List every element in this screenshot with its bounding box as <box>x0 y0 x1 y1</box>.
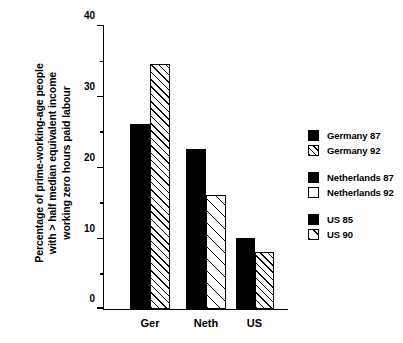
legend-label-us-85: US 85 <box>327 214 353 225</box>
bar-us-90 <box>255 252 274 309</box>
y-tick-minor-15 <box>100 202 104 203</box>
legend-item-netherlands-92: Netherlands 92 <box>308 185 394 200</box>
plot-area: 40 30 20 10 0 Ger Neth US <box>103 25 288 310</box>
y-tick-0 <box>97 307 103 308</box>
x-tick-label-us: US <box>247 317 262 329</box>
legend-label-germany-87: Germany 87 <box>327 130 380 141</box>
x-axis-line <box>103 309 288 310</box>
x-tick-label-ger: Ger <box>141 317 160 329</box>
legend-group-germany: Germany 87 Germany 92 <box>308 128 394 158</box>
bar-netherlands-87 <box>186 149 206 309</box>
legend-swatch-hatch-icon <box>308 145 319 156</box>
x-tick-label-neth: Neth <box>194 317 218 329</box>
y-tick-label-0: 0 <box>89 292 95 303</box>
bar-germany-92 <box>150 64 170 309</box>
bar-chart: Percentage of prime-working-age people w… <box>0 0 403 343</box>
y-tick-minor-35 <box>100 61 104 62</box>
y-axis-title-text: Percentage of prime-working-age people w… <box>33 63 74 262</box>
legend-label-germany-92: Germany 92 <box>327 145 380 156</box>
legend: Germany 87 Germany 92 Netherlands 87 Net… <box>308 128 394 242</box>
bar-us-85 <box>236 238 255 309</box>
legend-item-us-85: US 85 <box>308 212 394 227</box>
y-tick-30 <box>97 96 103 97</box>
y-tick-label-30: 30 <box>84 81 95 92</box>
y-tick-20 <box>97 167 103 168</box>
legend-label-netherlands-87: Netherlands 87 <box>327 172 394 183</box>
legend-item-germany-87: Germany 87 <box>308 128 394 143</box>
legend-item-netherlands-87: Netherlands 87 <box>308 170 394 185</box>
y-tick-minor-25 <box>100 131 104 132</box>
legend-swatch-solid-icon <box>308 130 319 141</box>
legend-swatch-hollow-icon <box>308 187 319 198</box>
legend-group-netherlands: Netherlands 87 Netherlands 92 <box>308 170 394 200</box>
y-axis-title: Percentage of prime-working-age people w… <box>23 18 83 308</box>
legend-swatch-solid-icon <box>308 214 319 225</box>
legend-swatch-solid-icon <box>308 172 319 183</box>
y-tick-10 <box>97 238 103 239</box>
bar-germany-87 <box>130 124 150 308</box>
legend-label-us-90: US 90 <box>327 229 353 240</box>
bar-netherlands-92 <box>206 195 226 308</box>
legend-swatch-diagonal-icon <box>308 229 319 240</box>
y-tick-minor-5 <box>100 273 104 274</box>
y-tick-40 <box>97 25 103 26</box>
y-axis-line <box>103 25 104 310</box>
y-tick-label-10: 10 <box>84 223 95 234</box>
legend-group-us: US 85 US 90 <box>308 212 394 242</box>
legend-item-us-90: US 90 <box>308 227 394 242</box>
legend-item-germany-92: Germany 92 <box>308 143 394 158</box>
legend-label-netherlands-92: Netherlands 92 <box>327 187 394 198</box>
y-tick-label-20: 20 <box>84 152 95 163</box>
y-tick-label-40: 40 <box>84 10 95 21</box>
